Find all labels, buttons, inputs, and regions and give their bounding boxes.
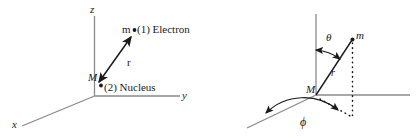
theta-angle-label: θ <box>326 32 331 43</box>
radius-vector-label: r <box>127 57 131 68</box>
electron-label: (1) Electron <box>137 24 190 35</box>
point-mass-label: m <box>356 30 364 41</box>
phi-angle-arc <box>266 98 338 113</box>
left-diagram-panel: z y x m (1) Electron M (2) Nucleus r <box>0 0 210 136</box>
radial-length-label: r <box>331 68 335 78</box>
y-axis-label: y <box>182 90 187 101</box>
right-diagram-panel: M m r θ ϕ <box>210 0 417 136</box>
nucleus-mass-symbol: M <box>88 72 97 83</box>
electron-point <box>133 28 137 32</box>
x-axis-label: x <box>12 119 17 130</box>
physics-figure: z y x m (1) Electron M (2) Nucleus r <box>0 0 417 136</box>
left-diagram-canvas <box>0 0 210 136</box>
nucleus-point <box>99 84 103 88</box>
nucleus-label: (2) Nucleus <box>104 82 156 93</box>
theta-angle-arc <box>316 50 340 59</box>
z-axis-label: z <box>90 4 94 15</box>
origin-mass-label: M <box>306 84 315 95</box>
phi-angle-label: ϕ <box>300 116 306 128</box>
x-axis-line <box>22 96 95 126</box>
point-mass-marker <box>351 38 355 42</box>
right-diagram-canvas <box>210 0 417 136</box>
electron-mass-symbol: m <box>122 24 131 35</box>
